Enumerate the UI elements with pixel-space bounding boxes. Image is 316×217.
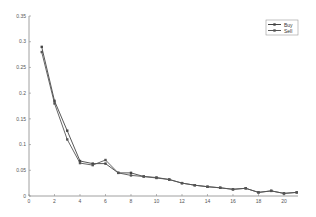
data-point-marker	[283, 192, 285, 194]
data-point-marker	[206, 186, 208, 188]
data-point-marker	[117, 172, 119, 174]
x-tick-label: 10	[154, 198, 160, 204]
data-point-marker	[245, 187, 247, 189]
data-point-marker	[232, 188, 234, 190]
data-point-marker	[41, 46, 43, 48]
data-point-marker	[296, 191, 298, 193]
data-point-marker	[168, 178, 170, 180]
series-line	[42, 52, 297, 193]
x-tick-label: 0	[28, 198, 31, 204]
data-point-marker	[104, 162, 106, 164]
x-tick-label: 8	[130, 198, 133, 204]
data-point-marker	[257, 191, 259, 193]
series-group	[41, 46, 298, 195]
x-tick-label: 4	[79, 198, 82, 204]
y-tick-label: 0.3	[19, 38, 26, 44]
data-point-marker	[130, 174, 132, 176]
data-point-marker	[181, 182, 183, 184]
data-point-marker	[219, 187, 221, 189]
legend-box	[266, 20, 298, 35]
y-tick-label: 0.25	[16, 64, 26, 70]
data-point-marker	[66, 129, 68, 131]
x-tick-label: 20	[281, 198, 287, 204]
x-ticks: 02468101214161820	[28, 194, 287, 204]
y-tick-label: 0.15	[16, 116, 26, 122]
legend-marker-sell	[273, 29, 275, 31]
y-tick-label: 0.1	[19, 141, 26, 147]
data-point-marker	[143, 175, 145, 177]
series-line	[42, 47, 297, 194]
data-point-marker	[79, 162, 81, 164]
x-tick-label: 6	[104, 198, 107, 204]
y-tick-label: 0.05	[16, 167, 26, 173]
x-tick-label: 16	[230, 198, 236, 204]
legend-label-sell: Sell	[284, 28, 292, 34]
data-point-marker	[270, 190, 272, 192]
x-tick-label: 18	[256, 198, 262, 204]
data-point-marker	[92, 164, 94, 166]
data-point-marker	[53, 102, 55, 104]
data-point-marker	[104, 159, 106, 161]
legend: Buy Sell	[266, 20, 298, 35]
x-tick-label: 14	[205, 198, 211, 204]
y-tick-label: 0.2	[19, 90, 26, 96]
y-tick-label: 0	[23, 193, 26, 199]
data-point-marker	[194, 184, 196, 186]
data-point-marker	[155, 177, 157, 179]
y-tick-label: 0.35	[16, 13, 26, 19]
data-point-marker	[66, 138, 68, 140]
axes: 00.050.10.150.20.250.30.35 0246810121416…	[16, 13, 298, 204]
x-tick-label: 12	[179, 198, 185, 204]
x-tick-label: 2	[53, 198, 56, 204]
series-sell	[41, 51, 298, 195]
data-point-marker	[130, 172, 132, 174]
data-point-marker	[41, 51, 43, 53]
line-chart: 00.050.10.150.20.250.30.35 0246810121416…	[0, 0, 316, 217]
legend-marker-buy	[273, 23, 275, 25]
series-buy	[41, 46, 298, 195]
